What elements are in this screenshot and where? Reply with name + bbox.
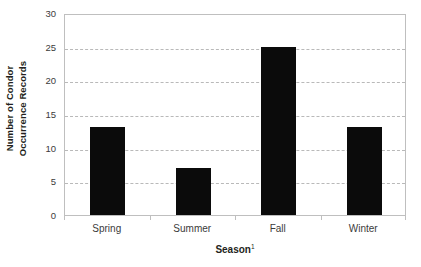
x-axis-title-text: Season [215,244,251,255]
x-axis-tick-mark [235,216,236,220]
y-axis-title-line-2: Occurrence Records [17,60,30,155]
y-axis-tick-label: 30 [45,9,56,19]
x-axis-category-label: Winter [349,222,378,236]
y-axis-tick-label: 20 [45,76,56,86]
x-axis-tick-mark [64,216,65,220]
y-axis-tick-label: 0 [51,211,56,221]
bar-summer [176,168,211,215]
x-axis-category-label: Summer [173,222,211,236]
x-axis-tick-mark [321,216,322,220]
y-axis-tick-label: 15 [45,110,56,120]
x-axis-category-label: Spring [92,222,121,236]
bar-chart: Number of Condor Occurrence Records 0510… [0,0,421,267]
bar-winter [347,127,382,215]
x-axis-tick-mark [405,216,406,220]
y-axis-tick-labels: 051015202530 [34,14,60,216]
x-axis-tick-marks [64,216,406,220]
x-axis-title-footnote-marker: 1 [251,243,255,250]
y-axis-title-line-1: Number of Condor [5,60,18,155]
x-axis-category-labels: SpringSummerFallWinter [64,222,406,238]
y-axis-title: Number of Condor Occurrence Records [0,0,34,216]
bars-layer [65,15,405,215]
y-axis-tick-label: 25 [45,43,56,53]
x-axis-category-label: Fall [270,222,286,236]
plot-area [64,14,406,216]
y-axis-tick-label: 10 [45,144,56,154]
x-axis-tick-mark [150,216,151,220]
x-axis-title: Season1 [64,243,406,256]
bar-fall [261,47,296,215]
bar-spring [90,127,125,215]
y-axis-tick-label: 5 [51,177,56,187]
